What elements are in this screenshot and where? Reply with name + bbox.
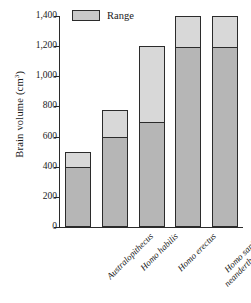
x-axis-line: [59, 227, 243, 228]
y-tick-label: 1,200: [36, 41, 57, 51]
bar-segment-lower: [176, 47, 200, 226]
y-tick-label: 400: [43, 162, 57, 172]
brain-volume-chart: Brain volume (cm3) Range 02004006008001,…: [0, 0, 251, 303]
bar-segment-lower: [66, 167, 90, 226]
x-axis-label-line: Homo erectus: [175, 231, 218, 274]
bar-homo-habilis: [102, 110, 128, 227]
bar-segment-lower: [213, 47, 237, 226]
y-tick-label: 600: [43, 132, 57, 142]
y-tick-label: 1,400: [36, 11, 57, 21]
y-axis-title-text: Brain volume (cm: [14, 78, 25, 158]
bar-segment-lower: [140, 122, 164, 226]
y-tick-label: 800: [43, 102, 57, 112]
bar-homo-erectus: [139, 46, 165, 227]
x-axis-label-homo-erectus: Homo erectus: [175, 231, 218, 274]
y-tick-label: 0: [52, 222, 57, 232]
y-tick-label: 1,000: [36, 72, 57, 82]
x-axis-label-homo-sapiens-neanderthalensis: Homo sapiensneanderthalensis: [215, 231, 251, 289]
plot-area: 02004006008001,0001,2001,400: [60, 16, 243, 227]
bar-homo-sapiens-neanderthalensis: [175, 16, 201, 227]
y-axis-title-superscript: 3: [13, 74, 21, 78]
y-tick-label: 200: [43, 192, 57, 202]
y-axis-title: Brain volume (cm3): [13, 39, 26, 189]
bar-australopithecus: [65, 152, 91, 227]
bar-homo-sapiens-sapiens: [212, 16, 238, 227]
bar-segment-lower: [103, 137, 127, 226]
y-axis-title-tail: ): [14, 71, 25, 75]
